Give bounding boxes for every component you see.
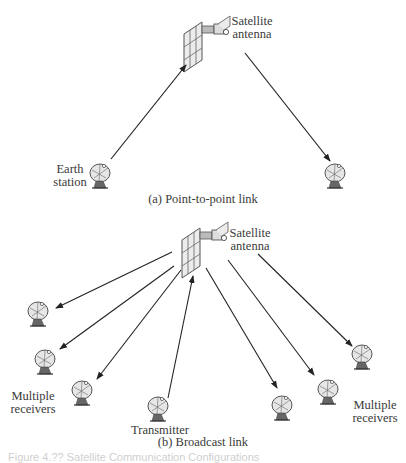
satellite-antenna-label-a: Satellite antenna	[222, 15, 282, 41]
receiver-dish-icon	[28, 302, 48, 326]
panel-b-caption: (b) Broadcast link	[0, 435, 406, 450]
label-line: receivers	[350, 412, 400, 425]
diagram-canvas	[0, 0, 406, 463]
earth-station-label: Earth station	[50, 163, 90, 189]
receiver-dish-icon	[325, 164, 345, 188]
uplink-arrow	[111, 65, 186, 159]
receiver-dish-icon	[272, 396, 292, 420]
panel-b	[28, 222, 372, 421]
multiple-receivers-label-left: Multiple receivers	[8, 390, 58, 416]
multiple-receivers-label-right: Multiple receivers	[350, 399, 400, 425]
earth-station-dish-icon	[90, 164, 110, 188]
label-line: antenna	[220, 240, 280, 253]
receiver-dish-icon	[352, 345, 372, 369]
satellite-antenna-label-b: Satellite antenna	[220, 227, 280, 253]
label-line: receivers	[8, 403, 58, 416]
label-line: station	[50, 176, 90, 189]
transmitter-dish-icon	[148, 397, 168, 421]
receiver-dish-icon	[318, 380, 338, 404]
panel-a-caption: (a) Point-to-point link	[0, 192, 406, 207]
figure-caption: Figure 4.?? Satellite Communication Conf…	[8, 451, 259, 463]
label-line: antenna	[222, 28, 282, 41]
panel-a	[90, 16, 345, 188]
downlink-arrow	[245, 53, 330, 161]
receiver-dish-icon	[72, 381, 92, 405]
receiver-dish-icon	[35, 350, 55, 374]
